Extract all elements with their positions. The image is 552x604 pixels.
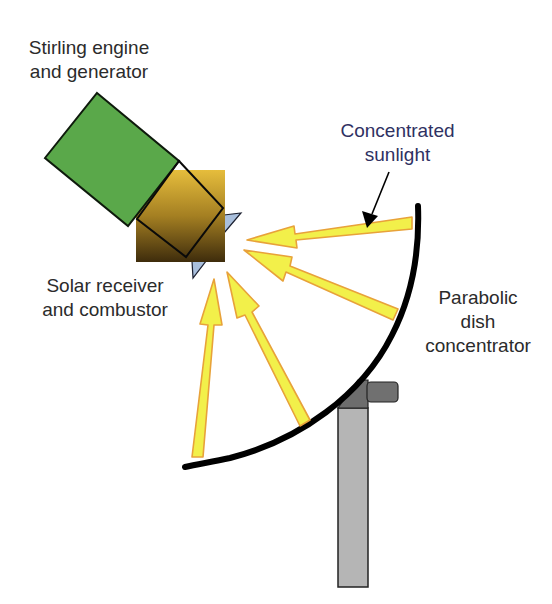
sunlight-ray-1 (247, 217, 412, 248)
receiver-fin-lower (192, 261, 206, 278)
label-engine-line1: Stirling engine (24, 36, 154, 60)
sunlight-ray-4 (227, 272, 310, 426)
label-dish-line1: Parabolic (418, 286, 538, 310)
stand-knob (367, 382, 398, 402)
sunlight-ray-3 (192, 279, 222, 457)
stand-pole (338, 408, 368, 587)
receiver-fin-upper (224, 213, 241, 233)
label-receiver-line1: Solar receiver (22, 274, 188, 298)
label-sunlight-line2: sunlight (330, 143, 465, 167)
label-sunlight-line1: Concentrated (330, 119, 465, 143)
label-solar-receiver: Solar receiver and combustor (22, 274, 188, 322)
diagram-canvas: Stirling engine and generator Concentrat… (0, 0, 552, 604)
label-parabolic-dish: Parabolic dish concentrator (418, 286, 538, 358)
label-dish-line2: dish (418, 310, 538, 334)
label-concentrated-sunlight: Concentrated sunlight (330, 119, 465, 167)
label-stirling-engine: Stirling engine and generator (24, 36, 154, 84)
sunlight-ray-2 (244, 250, 398, 320)
stand-bracket (338, 380, 368, 408)
label-receiver-line2: and combustor (22, 298, 188, 322)
callout-pointer-line (372, 172, 389, 214)
label-engine-line2: and generator (24, 60, 154, 84)
label-dish-line3: concentrator (418, 334, 538, 358)
